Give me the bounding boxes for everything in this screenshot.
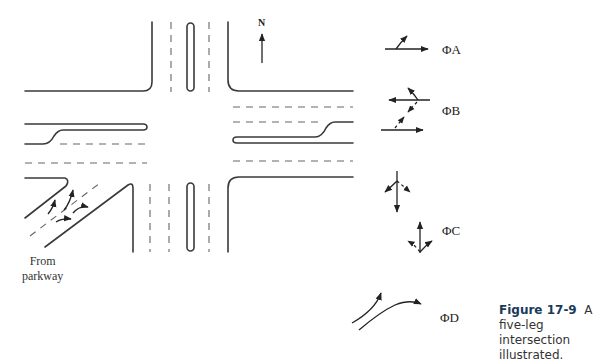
parkway-curb-lower bbox=[45, 184, 133, 252]
north-median bbox=[187, 23, 194, 91]
figure-number: Figure 17-9 bbox=[499, 303, 577, 317]
south-median bbox=[187, 183, 194, 251]
parkway-flow-arrow-2 bbox=[48, 200, 55, 214]
west-median bbox=[25, 124, 147, 144]
from-label-line2: parkway bbox=[22, 269, 63, 284]
parkway-flow-arrow-1 bbox=[64, 190, 73, 210]
figure-caption: Figure 17-9 A five-leg intersection illu… bbox=[499, 303, 604, 363]
east-median bbox=[233, 122, 353, 143]
phase-a-movement-icon bbox=[385, 36, 428, 49]
nw-curb bbox=[25, 22, 152, 91]
phase-c-movement-icon bbox=[385, 171, 432, 253]
parkway-flow-arrow-4 bbox=[56, 219, 71, 222]
from-label-line1: From bbox=[22, 254, 63, 269]
phase-b-label: ΦB bbox=[442, 103, 460, 119]
phase-b-movement-icon bbox=[381, 88, 430, 130]
from-parkway-label: From parkway bbox=[22, 254, 63, 284]
parkway-flow-arrow-3 bbox=[73, 207, 88, 213]
se-curb bbox=[228, 177, 353, 252]
phase-d-label: ΦD bbox=[440, 310, 459, 326]
phase-d-movement-icon bbox=[352, 293, 421, 330]
phase-a-label: ΦA bbox=[442, 42, 461, 58]
phase-c-label: ΦC bbox=[442, 223, 460, 239]
north-label: N bbox=[258, 17, 265, 28]
ne-curb bbox=[228, 22, 353, 91]
